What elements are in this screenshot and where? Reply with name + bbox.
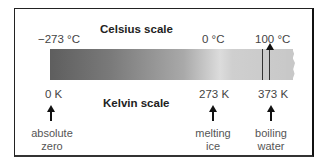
annotation-boiling-water: boiling water [249,127,293,153]
boiling-point-marker [269,49,270,80]
annotation-absolute-zero: absolute zero [28,127,76,153]
arrow-up-icon [270,111,272,121]
arrow-up-icon [212,111,214,121]
temperature-gradient-bar [50,49,293,80]
celsius-scale-title: Celsius scale [100,23,173,35]
kelvin-tick-373: 373 K [258,88,288,100]
kelvin-tick-0: 0 K [45,88,62,100]
melting-point-marker [262,49,263,80]
kelvin-scale-title: Kelvin scale [103,97,169,109]
bar-torn-edge [286,49,295,80]
arrow-up-icon [50,111,52,121]
celsius-tick-0: 0 °C [202,33,225,45]
annotation-melting-ice: melting ice [190,127,236,153]
kelvin-tick-273: 273 K [199,88,229,100]
celsius-tick-minus273: −273 °C [38,33,80,45]
